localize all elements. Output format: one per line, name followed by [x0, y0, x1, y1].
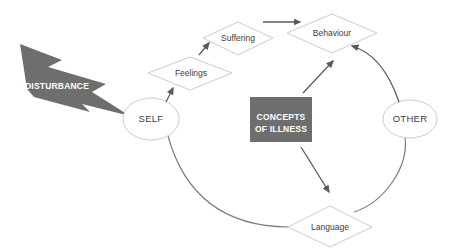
edge-other-language-curve — [354, 137, 405, 212]
disturbance-shape — [20, 44, 130, 116]
feelings-label: Feelings — [175, 68, 207, 78]
edge-concepts-language-arrow — [301, 147, 329, 192]
diagram-canvas: DISTURBANCE SELF OTHER Feelings Sufferin… — [0, 0, 461, 249]
behaviour-label: Behaviour — [313, 28, 351, 38]
edge-concepts-behaviour-arrow — [303, 61, 333, 93]
edge-other-behaviour-curved-arrow — [352, 46, 399, 102]
edge-self-feelings-arrow — [166, 88, 173, 102]
concepts-of-illness-label-line2: OF ILLNESS — [255, 124, 307, 134]
other-label: OTHER — [393, 113, 428, 124]
concepts-of-illness-label-line1: CONCEPTS — [257, 112, 306, 122]
suffering-label: Suffering — [221, 33, 255, 43]
edge-feelings-suffering-arrow — [199, 43, 209, 55]
edge-self-language-curve — [168, 136, 288, 227]
self-label: SELF — [139, 113, 164, 124]
language-label: Language — [311, 222, 349, 232]
diagram: DISTURBANCE SELF OTHER Feelings Sufferin… — [0, 0, 461, 249]
disturbance-label: DISTURBANCE — [25, 81, 89, 91]
